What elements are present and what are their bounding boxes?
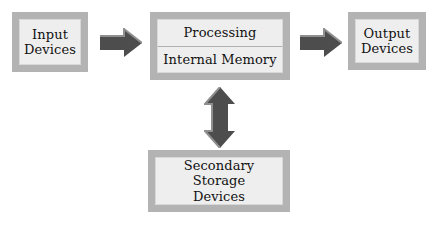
- node-input-devices: Input Devices: [12, 12, 88, 72]
- arrow-processing-to-secondary-storage: [204, 87, 236, 148]
- right-arrow-icon: [100, 28, 142, 58]
- node-processing-cell: Processing: [158, 20, 282, 47]
- node-internal-memory-cell: Internal Memory: [158, 47, 282, 73]
- node-secondary-storage-devices: Secondary Storage Devices: [148, 150, 290, 212]
- node-secondary-storage-devices-label: Secondary Storage Devices: [180, 158, 259, 204]
- node-processing-label: Processing: [180, 25, 261, 40]
- right-arrow-icon: [300, 28, 342, 58]
- arrow-processing-to-output: [300, 28, 342, 58]
- node-output-devices-label: Output Devices: [357, 26, 417, 57]
- node-secondary-storage-devices-panel: Secondary Storage Devices: [155, 157, 283, 205]
- node-output-devices-panel: Output Devices: [355, 19, 419, 63]
- diagram-canvas: Input Devices Processing Internal Memory…: [0, 0, 439, 226]
- node-processing-memory: Processing Internal Memory: [150, 12, 290, 80]
- node-input-devices-panel: Input Devices: [19, 19, 81, 65]
- node-output-devices: Output Devices: [348, 12, 426, 70]
- node-input-devices-label: Input Devices: [20, 27, 80, 58]
- arrow-input-to-processing: [100, 28, 142, 58]
- up-down-arrow-icon: [204, 87, 236, 148]
- node-processing-memory-panel: Processing Internal Memory: [157, 19, 283, 73]
- node-internal-memory-label: Internal Memory: [159, 52, 280, 67]
